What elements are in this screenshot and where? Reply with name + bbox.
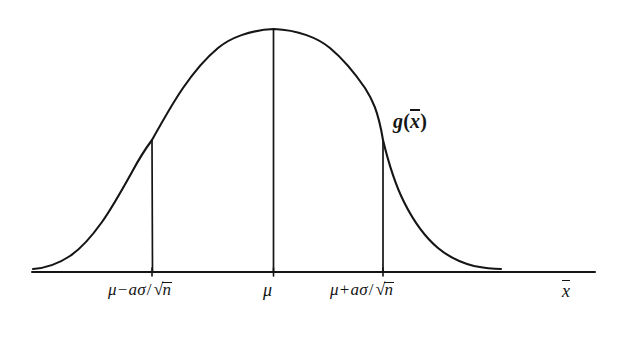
curve-label-xbar: x: [410, 108, 420, 131]
divide-slash-right: /: [368, 280, 375, 299]
sigma-symbol-right: σ: [359, 280, 368, 299]
tick-label-mu-minus-a-sigma-over-sqrt-n: μ−aσ/√n: [108, 281, 172, 298]
tick-label-mu: μ: [263, 281, 272, 299]
curve-label-g-xbar: g(x): [393, 108, 427, 131]
curve-label-close-paren: ): [420, 110, 427, 132]
normal-curve-path: [33, 29, 501, 269]
plus-operator: +: [339, 280, 351, 299]
mu-symbol-center: μ: [263, 280, 272, 300]
radicand-n-right: n: [384, 281, 394, 298]
curve-label-g: g: [393, 110, 403, 132]
distribution-chart-canvas: [0, 0, 621, 343]
sqrt-n-right: √n: [375, 281, 394, 298]
sigma-symbol-left: σ: [137, 280, 146, 299]
xbar-symbol-axis: x: [562, 279, 570, 300]
mu-symbol-right: μ: [330, 280, 339, 299]
radicand-n-left: n: [162, 281, 172, 298]
chart-ink: [32, 29, 595, 276]
minus-operator: −: [117, 280, 129, 299]
ordinate-line-left: [152, 140, 153, 272]
figure-root: g(x) μ−aσ/√n μ μ+aσ/√n x: [0, 0, 621, 343]
x-axis-variable-label: x: [562, 279, 570, 300]
divide-slash-left: /: [146, 280, 153, 299]
a-symbol-left: a: [129, 280, 138, 299]
tick-label-mu-plus-a-sigma-over-sqrt-n: μ+aσ/√n: [330, 281, 394, 298]
mu-symbol-left: μ: [108, 280, 117, 299]
a-symbol-right: a: [351, 280, 360, 299]
sqrt-n-left: √n: [153, 281, 172, 298]
